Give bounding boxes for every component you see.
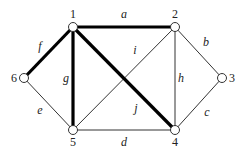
edge-label-g: g <box>63 71 69 85</box>
node-2 <box>171 23 180 32</box>
node-6 <box>20 74 29 83</box>
node-label-3: 3 <box>229 71 235 85</box>
node-3 <box>218 74 227 83</box>
edge-label-a: a <box>121 7 127 21</box>
node-5 <box>69 126 78 135</box>
node-1 <box>69 23 78 32</box>
node-label-6: 6 <box>11 71 17 85</box>
edges-group <box>24 27 222 130</box>
edge-e <box>24 78 73 130</box>
edge-label-h: h <box>178 71 184 85</box>
node-label-4: 4 <box>172 135 178 149</box>
edge-label-c: c <box>204 105 210 119</box>
node-label-2: 2 <box>172 7 178 21</box>
edge-label-f: f <box>38 39 43 53</box>
edge-label-d: d <box>121 135 128 149</box>
graph-diagram: abcdefghij123456 <box>0 0 247 157</box>
node-4 <box>171 126 180 135</box>
edge-label-i: i <box>133 43 136 57</box>
edge-label-j: j <box>132 101 138 115</box>
node-label-5: 5 <box>70 135 76 149</box>
edge-c <box>175 78 222 130</box>
edge-label-b: b <box>203 35 209 49</box>
node-label-1: 1 <box>70 7 76 21</box>
edge-label-e: e <box>37 103 43 117</box>
